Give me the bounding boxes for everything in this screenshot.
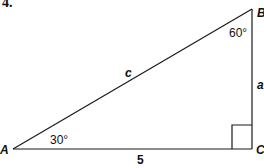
angle-a-label: 30° bbox=[50, 134, 68, 146]
vertex-b-label: B bbox=[257, 7, 264, 19]
vertex-c-label: C bbox=[256, 144, 264, 156]
triangle-figure bbox=[0, 0, 264, 168]
right-angle-marker bbox=[232, 125, 252, 149]
side-c-label: c bbox=[125, 67, 132, 79]
side-a-label: a bbox=[257, 79, 264, 91]
angle-b-label: 60° bbox=[229, 27, 247, 39]
side-c bbox=[13, 9, 252, 149]
side-b-label: 5 bbox=[137, 154, 144, 166]
vertex-a-label: A bbox=[0, 144, 9, 156]
problem-number: 4. bbox=[2, 0, 13, 9]
